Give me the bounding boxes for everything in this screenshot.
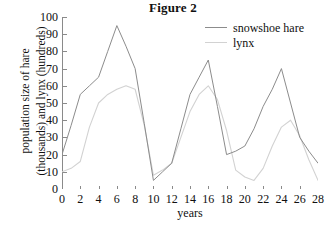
y-tick-label-40: 40: [32, 114, 58, 126]
legend-label: lynx: [233, 36, 254, 50]
legend-item-lynx: lynx: [205, 35, 323, 50]
y-tick-label-10: 10: [32, 166, 58, 178]
page-title: Figure 2: [113, 1, 233, 15]
y-tick-label-100: 100: [32, 11, 58, 23]
y-tick-label-90: 90: [32, 28, 58, 40]
x-tick-label-28: 28: [308, 193, 328, 205]
x-tick-label-8: 8: [125, 193, 145, 205]
x-tick-label-12: 12: [162, 193, 182, 205]
x-tick-label-6: 6: [107, 193, 127, 205]
x-tick-label-14: 14: [180, 193, 200, 205]
y-tick-label-30: 30: [32, 131, 58, 143]
x-tick-label-22: 22: [253, 193, 273, 205]
series-line-lynx: [62, 86, 318, 181]
x-tick-label-26: 26: [290, 193, 310, 205]
x-tick-label-0: 0: [52, 193, 72, 205]
x-tick-label-2: 2: [70, 193, 90, 205]
y-tick-label-50: 50: [32, 97, 58, 109]
x-tick-label-10: 10: [143, 193, 163, 205]
x-tick-label-16: 16: [198, 193, 218, 205]
y-axis-title-line-1: population size of hare: [17, 1, 33, 201]
x-tick-label-18: 18: [217, 193, 237, 205]
x-axis-title: years: [62, 206, 318, 220]
legend-item-snowshoe-hare: snowshoe hare: [205, 20, 323, 35]
legend: snowshoe harelynx: [205, 20, 323, 50]
legend-swatch-line-icon: [205, 27, 227, 28]
y-tick-label-80: 80: [32, 45, 58, 57]
x-tick-label-4: 4: [89, 193, 109, 205]
y-tick-label-60: 60: [32, 80, 58, 92]
legend-swatch-line-icon: [205, 42, 227, 43]
legend-label: snowshoe hare: [233, 21, 304, 35]
y-tick-label-20: 20: [32, 149, 58, 161]
y-tick-label-70: 70: [32, 63, 58, 75]
x-tick-label-20: 20: [235, 193, 255, 205]
x-tick-label-24: 24: [271, 193, 291, 205]
